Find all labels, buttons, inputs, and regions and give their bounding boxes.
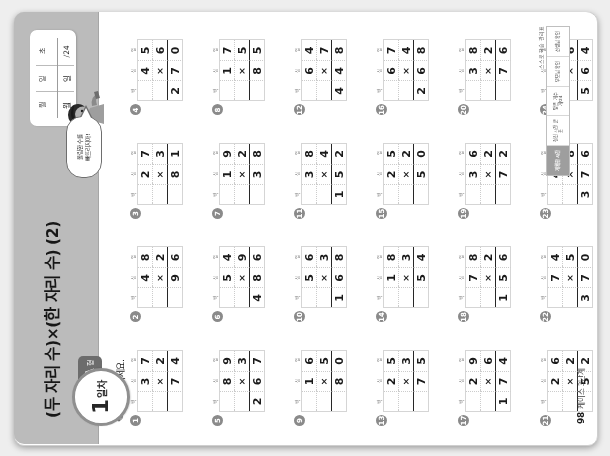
problem-item[interactable]: 17백십일29×6174 xyxy=(458,339,526,427)
digit-cell: 7 xyxy=(317,41,332,61)
digit-cell xyxy=(563,184,578,204)
digit-cell: × xyxy=(481,61,496,81)
problem-item[interactable]: 16백십일67×4268 xyxy=(376,28,444,116)
digit-cell: 6 xyxy=(414,61,429,81)
place-value-headers: 백십일 xyxy=(458,350,465,412)
problem-item[interactable]: 5백십일89×3267 xyxy=(212,339,280,427)
place-value-label: 백 xyxy=(212,81,219,102)
place-value-headers: 백십일 xyxy=(212,350,219,412)
answer-row: 80 xyxy=(332,351,347,411)
problem-item[interactable]: 20백십일38×276 xyxy=(458,28,526,116)
digit-cell xyxy=(220,288,235,308)
digit-cell: × xyxy=(153,371,168,391)
problem-number: 16 xyxy=(376,105,387,116)
digit-cell: 7 xyxy=(168,61,183,81)
place-value-label: 백 xyxy=(376,288,383,309)
problem-number: 19 xyxy=(458,208,469,219)
calculation-rows: 36×272 xyxy=(465,143,511,205)
problem-item[interactable]: 14백십일18×354 xyxy=(376,235,444,323)
digit-cell: 9 xyxy=(220,144,235,164)
digit-cell: 8 xyxy=(332,248,347,268)
digit-cell: 8 xyxy=(220,371,235,391)
answer-row: 76 xyxy=(496,41,511,101)
calculation-rows: 17×585 xyxy=(219,40,265,102)
digit-cell xyxy=(548,391,563,411)
digit-cell xyxy=(153,184,168,204)
problem-item[interactable]: 11백십일38×4152 xyxy=(294,132,362,220)
answer-row: 96 xyxy=(168,248,183,308)
calculation-grid: 백십일89×3267 xyxy=(212,350,265,412)
problem-number: 21 xyxy=(540,415,551,426)
calculation-rows: 54×9486 xyxy=(219,247,265,309)
multiplier-row: ×2 xyxy=(481,41,496,101)
digit-cell: 7 xyxy=(496,371,511,391)
calculation-grid: 백십일48×296 xyxy=(130,247,183,309)
problem-item[interactable]: 10백십일56×3168 xyxy=(294,235,362,323)
answer-row: 81 xyxy=(168,144,183,204)
digit-cell: 3 xyxy=(235,351,250,371)
place-value-label: 일 xyxy=(212,247,219,268)
problem-item[interactable]: 3백십일27×381 xyxy=(130,132,198,220)
self-study-cell: 걸린 시간 분 초 xyxy=(547,115,569,145)
problem-grid: 1백십일37×2742백십일48×2963백십일27×3814백십일45×627… xyxy=(130,28,596,426)
digit-cell: × xyxy=(153,268,168,288)
digit-cell: 3 xyxy=(578,288,593,308)
answer-row: 376 xyxy=(578,144,593,204)
place-value-label: 백 xyxy=(130,288,137,309)
self-study-cell: 선생님 확인 xyxy=(547,27,569,56)
calculation-rows: 37×274 xyxy=(137,350,183,412)
problem-item[interactable]: 8백십일17×585 xyxy=(212,28,280,116)
calculation-grid: 백십일36×272 xyxy=(458,143,511,205)
digit-cell xyxy=(138,288,153,308)
place-value-label: 일 xyxy=(212,40,219,61)
problem-item[interactable]: 22백십일74×5370 xyxy=(540,235,596,323)
digit-cell xyxy=(384,81,399,101)
problem-number: 12 xyxy=(294,105,305,116)
digit-cell: 2 xyxy=(384,371,399,391)
place-value-label: 십 xyxy=(294,371,301,392)
place-value-label: 일 xyxy=(458,350,465,371)
answer-row: 50 xyxy=(414,144,429,204)
problem-item[interactable]: 15백십일25×250 xyxy=(376,132,444,220)
digit-cell: 2 xyxy=(496,144,511,164)
problem-item[interactable]: 18백십일78×2156 xyxy=(458,235,526,323)
problem-item[interactable]: 1백십일37×274 xyxy=(130,339,198,427)
digit-cell xyxy=(302,184,317,204)
digit-cell: 4 xyxy=(496,351,511,371)
calculation-rows: 67×4268 xyxy=(383,40,429,102)
place-value-label: 일 xyxy=(458,40,465,61)
digit-cell: 2 xyxy=(332,144,347,164)
day-badge[interactable]: 1 일차 xyxy=(72,368,130,426)
page-title: (두 자리 수)×(한 자리 수) (2) xyxy=(40,221,62,418)
digit-cell: 4 xyxy=(168,351,183,371)
calculation-grid: 백십일64×7448 xyxy=(294,40,347,102)
problem-number: 23 xyxy=(540,208,551,219)
place-value-label: 백 xyxy=(130,81,137,102)
calculation-rows: 26×252 xyxy=(547,350,593,412)
problem-item[interactable]: 7백십일19×238 xyxy=(212,132,280,220)
problem-item[interactable]: 6백십일54×9486 xyxy=(212,235,280,323)
problem-item[interactable]: 13백십일25×375 xyxy=(376,339,444,427)
digit-cell: 6 xyxy=(302,61,317,81)
digit-cell xyxy=(235,184,250,204)
problem-item[interactable]: 9백십일16×580 xyxy=(294,339,362,427)
digit-cell: 2 xyxy=(548,371,563,391)
digit-cell: 3 xyxy=(399,351,414,371)
place-value-label: 백 xyxy=(458,184,465,205)
digit-cell: 6 xyxy=(496,41,511,61)
digit-cell: × xyxy=(481,268,496,288)
place-value-label: 십 xyxy=(212,267,219,288)
place-value-label: 십 xyxy=(212,164,219,185)
problem-item[interactable]: 19백십일36×272 xyxy=(458,132,526,220)
problem-item[interactable]: 21백십일26×252 xyxy=(540,339,596,427)
problem-item[interactable]: 12백십일64×7448 xyxy=(294,28,362,116)
digit-cell: 7 xyxy=(548,268,563,288)
problem-number: 18 xyxy=(458,312,469,323)
digit-cell: 6 xyxy=(302,351,317,371)
digit-cell xyxy=(168,288,183,308)
problem-item[interactable]: 4백십일45×6270 xyxy=(130,28,198,116)
multiplier-row: ×3 xyxy=(235,351,250,411)
problem-item[interactable]: 2백십일48×296 xyxy=(130,235,198,323)
digit-cell xyxy=(317,288,332,308)
digit-cell: 2 xyxy=(466,371,481,391)
